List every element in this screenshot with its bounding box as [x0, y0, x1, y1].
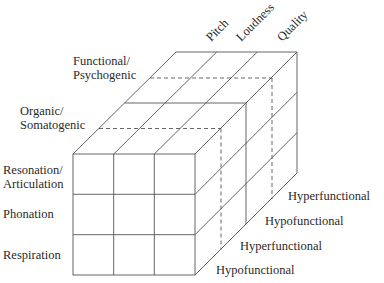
label-respiration: Respiration: [3, 248, 61, 262]
label-hypofunctional-front: Hypofunctional: [216, 263, 295, 277]
label-somatogenic: Somatogenic: [20, 118, 86, 132]
label-quality: Quality: [274, 7, 311, 44]
label-psychogenic: Psychogenic: [73, 68, 137, 82]
label-hyperfunctional-back: Hyperfunctional: [288, 189, 370, 203]
label-hypofunctional-back: Hypofunctional: [265, 214, 344, 228]
label-pitch: Pitch: [203, 16, 232, 45]
label-loudness: Loudness: [233, 0, 277, 44]
row-labels: Resonation/ Articulation Phonation Respi…: [3, 163, 64, 262]
label-resonation: Resonation/: [3, 163, 63, 177]
front-face-grid: [73, 154, 195, 275]
cube-diagram: Pitch Loudness Quality Functional/ Psych…: [0, 0, 384, 283]
label-articulation: Articulation: [3, 177, 64, 191]
top-axis-labels: Pitch Loudness Quality: [203, 0, 311, 44]
label-functional: Functional/: [73, 54, 130, 68]
label-phonation: Phonation: [3, 207, 54, 221]
depth-category-labels: Functional/ Psychogenic Organic/ Somatog…: [20, 54, 137, 132]
depth-slice-labels: Hyperfunctional Hypofunctional Hyperfunc…: [216, 189, 370, 277]
label-organic: Organic/: [20, 104, 64, 118]
label-hyperfunctional-front: Hyperfunctional: [240, 239, 322, 253]
